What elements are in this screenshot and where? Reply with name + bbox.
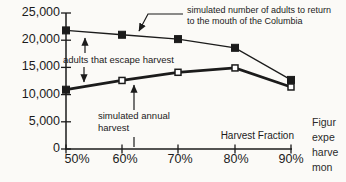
x-axis-label: Harvest Fraction	[180, 130, 294, 141]
annotation-escape-label: adults that escape harvest	[63, 54, 174, 66]
y-tick-label: 20,000	[12, 33, 60, 46]
caption-fragment: mon	[312, 160, 338, 175]
caption-fragment: Figur	[312, 115, 338, 130]
figure-panel: 25,000 20,000 15,000 10,000 5,000 0 50% …	[0, 0, 346, 182]
x-tick-label: 90%	[274, 153, 308, 166]
x-tick-label: 60%	[108, 153, 142, 166]
caption-fragment: expe	[312, 130, 338, 145]
series-1-marker-1	[119, 77, 125, 83]
caption-fragment-column: Figur expe harve mon	[312, 115, 338, 175]
x-tick-label: 80%	[219, 153, 253, 166]
y-tick-label: 5,000	[12, 115, 60, 128]
annotation-return-line1: simulated number of adults to return	[187, 5, 331, 16]
series-1-marker-0	[63, 86, 70, 93]
y-tick-label: 10,000	[12, 88, 60, 101]
series-1-marker-2	[175, 69, 181, 75]
caption-fragment: harve	[312, 145, 338, 160]
y-tick-label: 25,000	[12, 6, 60, 19]
series-0-marker-3	[232, 44, 239, 51]
annotation-harvest-line2: harvest	[98, 122, 170, 134]
annotation-harvest-label: simulated annual harvest	[98, 110, 170, 134]
annotation-harvest-line1: simulated annual	[98, 110, 170, 122]
series-0-marker-4	[288, 76, 295, 83]
series-0-marker-1	[119, 31, 126, 38]
x-tick-label: 50%	[60, 153, 94, 166]
y-tick-label: 15,000	[12, 60, 60, 73]
annotation-return-line2: to the mouth of the Columbia	[187, 16, 331, 27]
annotation-return-label: simulated number of adults to return to …	[187, 5, 331, 27]
y-tick-label: 0	[12, 142, 60, 155]
x-tick-label: 70%	[163, 153, 197, 166]
series-0-marker-0	[63, 27, 70, 34]
series-1-marker-3	[232, 65, 238, 71]
series-1-marker-4	[288, 84, 294, 90]
return-leader-arrow	[139, 14, 183, 31]
series-0-marker-2	[175, 36, 182, 43]
